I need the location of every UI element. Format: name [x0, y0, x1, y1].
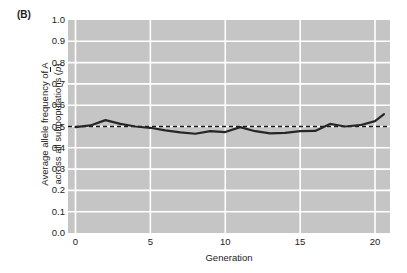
y-tick-label: 0.2 — [41, 185, 65, 195]
y-tick-label: 0.3 — [41, 164, 65, 174]
x-tick-label: 0 — [60, 236, 90, 248]
x-axis-tick-labels: 05101520 — [0, 236, 407, 252]
y-tick-label: 0.9 — [41, 36, 65, 46]
y-axis-title-wrapper: Average allele frequency of A across all… — [0, 0, 44, 240]
y-tick-label: 0.4 — [41, 143, 65, 153]
y-tick-label: 1.0 — [41, 15, 65, 25]
x-axis-title: Generation — [68, 252, 390, 264]
y-tick-label: 0.6 — [41, 100, 65, 110]
y-tick-label: 0.5 — [41, 122, 65, 132]
x-tick-label: 15 — [285, 236, 315, 248]
plot-area — [68, 20, 390, 233]
y-tick-label: 0.7 — [41, 79, 65, 89]
x-tick-label: 10 — [210, 236, 240, 248]
y-tick-label: 0.1 — [41, 207, 65, 217]
data-line-mean-allele-frequency — [75, 114, 384, 134]
x-tick-label: 20 — [360, 236, 390, 248]
y-axis-tick-labels: 0.00.10.20.30.40.50.60.70.80.91.0 — [39, 0, 65, 273]
y-tick-label: 0.8 — [41, 58, 65, 68]
figure-panel-b: (B) Average allele frequency of A across… — [0, 0, 407, 273]
plot-svg — [68, 20, 390, 233]
x-tick-label: 5 — [135, 236, 165, 248]
